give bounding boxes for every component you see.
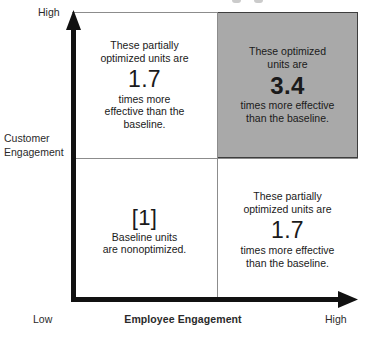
x-axis-high-label: High <box>325 313 347 325</box>
y-axis-title: Customer Engagement <box>4 132 70 159</box>
y-axis-high-label: High <box>38 6 60 18</box>
y-axis-title-line1: Customer <box>4 132 70 146</box>
quadrant-chart: These partially optimized units are 1.7 … <box>0 0 366 338</box>
y-axis-arrowhead <box>66 10 81 30</box>
axis-lines <box>0 0 366 338</box>
x-axis-arrowhead <box>338 291 358 308</box>
x-axis-title: Employee Engagement <box>0 313 366 325</box>
y-axis-title-line2: Engagement <box>4 146 70 160</box>
